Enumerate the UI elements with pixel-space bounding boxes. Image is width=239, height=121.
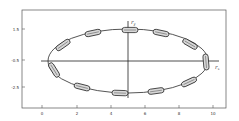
x-tick-label: 4: [110, 111, 113, 116]
x-tick-label: 8: [178, 111, 181, 116]
vertical-axis-label: ry: [131, 19, 136, 26]
y-tick-label: -2.5: [11, 85, 19, 90]
horizontal-axis-label: rx: [215, 64, 219, 71]
pill-body: [181, 76, 198, 87]
x-tick-label: 10: [210, 111, 216, 116]
x-tick-label: 6: [144, 111, 147, 116]
orbit-diagram: 1.5 -0.5 -2.5 0 2 4 6 8 10 ry rx: [0, 0, 239, 121]
pill-body: [148, 87, 165, 94]
pill-body: [112, 90, 128, 96]
pill-body: [85, 29, 102, 37]
pill-body: [153, 29, 170, 37]
bodies: [48, 27, 210, 95]
y-tick-label: -0.5: [11, 58, 19, 63]
y-tick-label: 1.5: [13, 27, 20, 32]
pill-body: [203, 54, 210, 70]
x-tick-label: 0: [41, 111, 44, 116]
pill-body: [74, 83, 91, 92]
y-axis: 1.5 -0.5 -2.5: [11, 27, 25, 90]
pill-body: [122, 27, 138, 32]
pill-body: [48, 62, 61, 78]
pill-body: [182, 38, 198, 51]
x-tick-label: 2: [76, 111, 79, 116]
pill-body: [55, 38, 71, 51]
x-axis: 0 2 4 6 8 10: [41, 105, 216, 116]
